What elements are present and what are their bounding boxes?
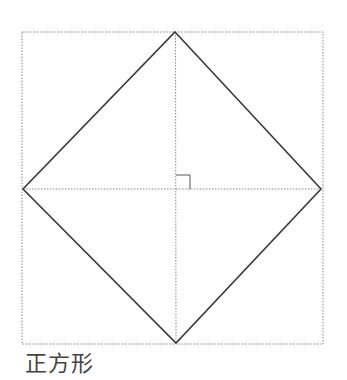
square-diagram — [0, 0, 347, 380]
right-angle-marker — [176, 175, 190, 189]
shape-label: 正方形 — [25, 350, 94, 378]
square-shape — [23, 32, 321, 343]
vertical-diagonal — [176, 32, 177, 343]
dotted-bounding-frame — [22, 32, 323, 344]
